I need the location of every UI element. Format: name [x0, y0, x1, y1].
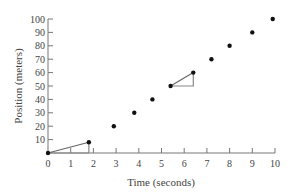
y-tick-label: 50 [35, 81, 45, 92]
data-point [250, 30, 254, 34]
x-tick-label: 10 [270, 158, 280, 169]
axes: 012345678910102030405060708090100 [30, 14, 280, 170]
x-tick-label: 9 [250, 158, 255, 169]
x-tick-label: 8 [227, 158, 232, 169]
x-tick-label: 2 [91, 158, 96, 169]
x-tick-label: 3 [114, 158, 119, 169]
data-point [209, 57, 213, 61]
position-time-chart: 012345678910102030405060708090100 Time (… [0, 0, 296, 193]
data-point [87, 140, 91, 144]
y-tick-label: 90 [35, 27, 45, 38]
data-point [227, 44, 231, 48]
slope-line [48, 142, 89, 153]
data-point [112, 124, 116, 128]
y-tick-label: 80 [35, 40, 45, 51]
y-axis-title: Position (meters) [12, 48, 25, 124]
x-tick-label: 1 [68, 158, 73, 169]
data-point [168, 84, 172, 88]
y-tick-label: 20 [35, 121, 45, 132]
data-point [191, 70, 195, 74]
x-tick-label: 6 [182, 158, 187, 169]
y-tick-label: 30 [35, 107, 45, 118]
slope-line [171, 73, 194, 86]
x-tick-label: 7 [204, 158, 209, 169]
y-tick-label: 60 [35, 67, 45, 78]
data-point [46, 151, 50, 155]
y-tick-label: 40 [35, 94, 45, 105]
x-tick-label: 0 [46, 158, 51, 169]
data-point [150, 97, 154, 101]
y-tick-label: 70 [35, 54, 45, 65]
y-tick-label: 100 [30, 14, 45, 25]
x-axis-title: Time (seconds) [127, 176, 195, 189]
data-points [46, 17, 275, 155]
data-point [271, 17, 275, 21]
y-tick-label: 10 [35, 134, 45, 145]
x-tick-label: 4 [136, 158, 141, 169]
data-point [132, 111, 136, 115]
x-tick-label: 5 [159, 158, 164, 169]
